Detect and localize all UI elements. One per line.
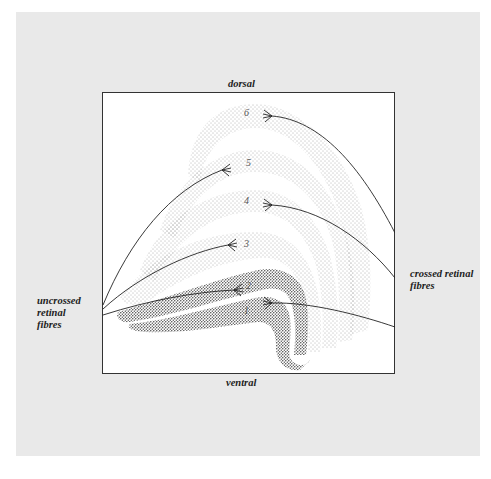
diagram-canvas: 6 5 4 3 2 1 (0, 0, 491, 479)
layer-3-number: 3 (243, 238, 249, 249)
layer-2-number: 2 (246, 280, 251, 291)
layer-6-number: 6 (244, 107, 249, 118)
crossed-label-line-2: fibres (410, 280, 473, 292)
layer-5-number: 5 (246, 157, 251, 168)
uncrossed-label-line-2: retinal (37, 307, 81, 319)
crossed-retinal-fibres-label: crossed retinal fibres (410, 268, 473, 292)
layer-4-number: 4 (244, 195, 249, 206)
uncrossed-label-line-1: uncrossed (37, 295, 81, 307)
layer-1-number: 1 (244, 305, 249, 316)
dorsal-label: dorsal (228, 78, 255, 90)
crossed-label-line-1: crossed retinal (410, 268, 473, 280)
ventral-label: ventral (226, 377, 256, 389)
uncrossed-label-line-3: fibres (37, 319, 81, 331)
uncrossed-retinal-fibres-label: uncrossed retinal fibres (37, 295, 81, 331)
